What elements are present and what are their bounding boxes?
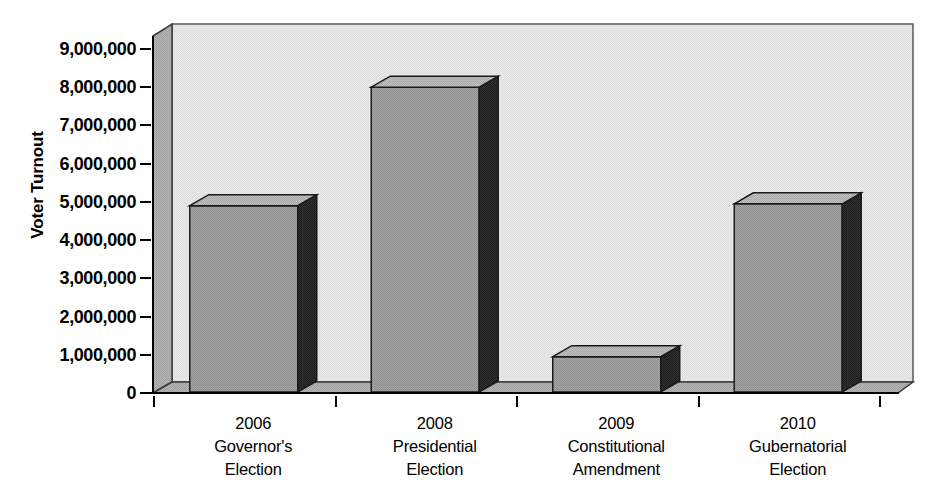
y-axis-tick-mark — [140, 86, 151, 88]
y-axis-tick-mark — [140, 354, 151, 356]
y-axis-tick-mark — [140, 124, 151, 126]
x-axis-category-line: Gubernatorial — [688, 435, 908, 458]
x-axis-category-label: 2010GubernatorialElection — [688, 412, 908, 481]
x-axis-category-labels: 2006Governor'sElection2008PresidentialEl… — [0, 0, 926, 503]
y-axis-tick-mark — [140, 277, 151, 279]
y-axis-tick-mark — [140, 48, 151, 50]
x-axis-tick-mark — [516, 396, 518, 407]
x-axis-tick-mark — [153, 396, 155, 407]
x-axis-category-line: 2010 — [688, 412, 908, 435]
x-axis-tick-mark — [698, 396, 700, 407]
y-axis-tick-mark — [140, 316, 151, 318]
y-axis-tick-mark — [140, 201, 151, 203]
voter-turnout-bar-chart: Voter Turnout 01,000,0002,000,0003,000,0… — [0, 0, 926, 503]
x-axis-tick-mark — [335, 396, 337, 407]
y-axis-tick-mark — [140, 392, 151, 394]
x-axis-tick-mark — [879, 396, 881, 407]
x-axis-category-line: Election — [688, 458, 908, 481]
y-axis-tick-mark — [140, 163, 151, 165]
y-axis-tick-mark — [140, 239, 151, 241]
